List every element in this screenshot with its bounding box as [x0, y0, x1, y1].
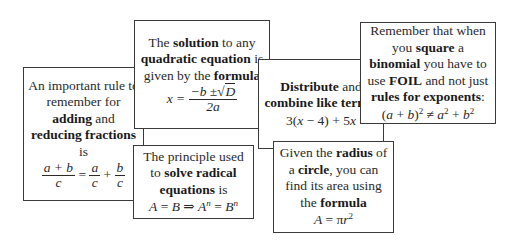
operator: = π	[322, 212, 343, 227]
card-text: An important rule to remember for adding…	[28, 78, 139, 161]
bold-term: rules for exponents	[371, 89, 481, 104]
denominator: 2a	[189, 100, 238, 114]
var: x	[350, 113, 356, 128]
card-square-binomial: Remember that when you square a binomial…	[360, 22, 496, 124]
text-segment: a	[455, 40, 464, 55]
var: b	[463, 107, 470, 122]
denominator: c	[115, 176, 126, 190]
text-segment: The	[149, 35, 173, 50]
operator: +	[393, 107, 407, 122]
card-radical-equations: The principle used to solve radical equa…	[133, 145, 254, 219]
bold-term: radius	[336, 145, 373, 160]
bold-term: Distribute	[280, 79, 339, 94]
bold-term: adding	[52, 111, 92, 126]
exponent: 2	[349, 211, 354, 221]
exponent: n	[233, 198, 238, 208]
operator: =	[157, 199, 171, 214]
operator: =	[78, 167, 86, 182]
operator: =	[211, 199, 225, 214]
text-segment: to any	[219, 35, 256, 50]
numerator: a + b	[42, 161, 75, 176]
numerator: a	[89, 161, 100, 176]
denominator: c	[42, 176, 75, 190]
text-segment: and not just	[422, 73, 488, 88]
bold-term: quadratic equation	[141, 51, 251, 66]
numerator: −b ±	[191, 84, 218, 99]
operator: +	[449, 107, 463, 122]
card-text: Given the radius of a circle, you can fi…	[278, 145, 389, 211]
bold-term: formula	[320, 195, 367, 210]
formula-quadratic: x = −b ±√D2a	[167, 85, 238, 114]
bold-term: circle	[298, 162, 329, 177]
bold-term: formula	[214, 68, 261, 83]
bold-term: square	[416, 40, 455, 55]
numerator: b	[115, 161, 126, 176]
card-quadratic-formula: The solution to any quadratic equation i…	[134, 20, 270, 129]
denominator: c	[89, 176, 100, 190]
card-text: The solution to any quadratic equation i…	[139, 35, 265, 85]
operator: ≠	[423, 107, 437, 122]
card-text: The principle used to solve radical equa…	[138, 149, 249, 199]
formula-expression: 3(x − 4) + 5x	[286, 113, 356, 130]
text-segment: and	[339, 79, 362, 94]
operator: +	[104, 167, 112, 182]
text-segment: is	[215, 182, 227, 197]
bold-term: solution	[173, 35, 219, 50]
text-segment: An important rule to remember for	[28, 78, 139, 110]
formula-radical: A = B ⇒ An = Bn	[149, 199, 238, 216]
text-segment: is	[79, 144, 88, 159]
formula-fraction-sum: a + bc = ac + bc	[42, 161, 126, 190]
formula-binomial: (a + b)2 ≠ a2 + b2	[382, 107, 474, 124]
var: B	[172, 199, 180, 214]
formula-circle-area: A = πr2	[314, 212, 353, 229]
card-circle-area: Given the radius of a circle, you can fi…	[273, 141, 394, 233]
text-segment: Given the	[280, 145, 336, 160]
text-segment: and	[92, 111, 115, 126]
bold-term: reducing fractions	[31, 127, 136, 142]
operator: ⇒	[180, 199, 198, 214]
card-adding-fractions: An important rule to remember for adding…	[23, 67, 144, 201]
expr-part: − 4) + 5	[303, 113, 350, 128]
var: A	[314, 212, 322, 227]
formula-lhs: x =	[167, 91, 185, 106]
bold-term: FOIL	[389, 73, 422, 88]
card-text: Remember that when you square a binomial…	[365, 23, 491, 106]
bold-term: binomial	[369, 56, 420, 71]
radicand: D	[225, 83, 236, 99]
expr-part: 3(	[286, 113, 297, 128]
bold-term: combine like terms	[264, 95, 373, 110]
exponent: 2	[470, 105, 475, 115]
text-segment: :	[481, 89, 485, 104]
